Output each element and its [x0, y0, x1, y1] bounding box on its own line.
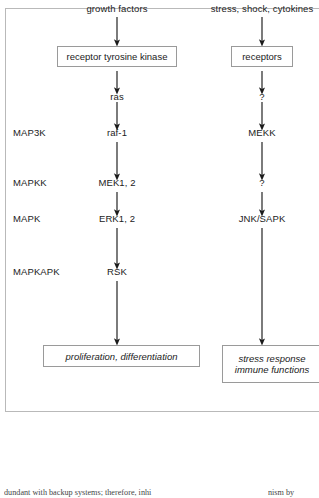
node-rsk: RSK — [107, 267, 127, 277]
box-receptors[interactable]: receptors — [231, 46, 293, 67]
tier-label-mapkk: MAPKK — [13, 178, 47, 188]
body-text-fragment-right: nism by — [268, 488, 294, 497]
stimulus-stress-shock-cytokines: stress, shock, cytokines — [211, 4, 314, 14]
node-ras: ras — [110, 92, 124, 102]
node-unknown-mapkk: ? — [259, 178, 264, 188]
node-raf1: raf-1 — [107, 128, 127, 138]
box-proliferation-differentiation[interactable]: proliferation, differentiation — [43, 345, 200, 367]
box-receptor-tyrosine-kinase[interactable]: receptor tyrosine kinase — [57, 46, 177, 67]
node-mek1-2: MEK1, 2 — [98, 178, 135, 188]
box-stress-response-immune-functions[interactable]: stress response immune functions — [222, 345, 319, 383]
node-unknown-mapkkk: ? — [259, 92, 264, 102]
body-text-fragment-left: dundant with backup systems; therefore, … — [4, 488, 151, 497]
node-mekk: MEKK — [248, 128, 275, 138]
tier-label-map3k: MAP3K — [13, 128, 46, 138]
outcome-line-immune-functions: immune functions — [235, 364, 309, 375]
outcome-line-stress-response: stress response — [238, 353, 305, 364]
node-jnk-sapk: JNK/SAPK — [239, 214, 286, 224]
tier-label-mapkapk: MAPKAPK — [13, 267, 60, 277]
tier-label-mapk: MAPK — [13, 214, 40, 224]
node-erk1-2: ERK1, 2 — [99, 214, 135, 224]
stimulus-growth-factors: growth factors — [86, 4, 147, 14]
